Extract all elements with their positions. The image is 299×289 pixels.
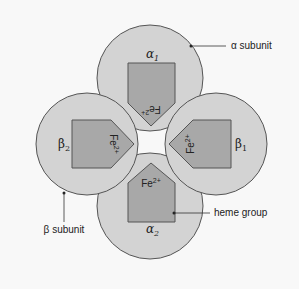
alpha-subunit-label: α subunit: [231, 40, 272, 51]
heme-group-label: heme group: [214, 207, 268, 218]
beta-subunit-label: β subunit: [44, 224, 85, 235]
hemoglobin-diagram: α1 β1 α2 β2 Fe2+ Fe2+ Fe2+ Fe2+ α subuni…: [0, 0, 299, 289]
